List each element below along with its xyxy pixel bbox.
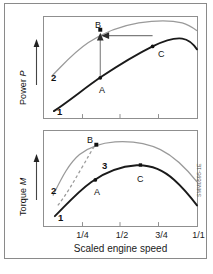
power-curve-label-2: 2 — [51, 72, 56, 83]
power-axis-arrow-icon — [32, 39, 41, 85]
torque-curve-1 — [55, 165, 197, 216]
torque-axis-title: Torque M — [18, 178, 28, 216]
figure-id-text: SMM0595-1E — [196, 163, 202, 197]
torque-curve-label-3: 3 — [102, 160, 107, 171]
torque-curve-label-2: 2 — [51, 185, 56, 196]
torque-plot-svg — [44, 131, 197, 226]
xaxis-tick-labels: 1/4 1/2 3/4 1/1 — [43, 230, 201, 242]
torque-curve-2 — [53, 142, 197, 196]
power-curve-label-1: 1 — [57, 106, 62, 117]
torque-curve-label-1: 1 — [58, 212, 63, 223]
torque-label-a: A — [94, 187, 100, 197]
xaxis-title: Scaled engine speed — [43, 243, 198, 254]
torque-plot-panel: B 3 C A 2 1 — [43, 130, 198, 227]
xtick-label-quarter: 1/4 — [76, 230, 89, 240]
torque-axis-title-text: Torque — [18, 188, 28, 216]
power-axis-title-text: Power — [18, 79, 28, 105]
xtick-label-half: 1/2 — [116, 230, 129, 240]
power-axis-title: Power P — [18, 70, 28, 105]
power-plot-svg — [44, 17, 197, 118]
torque-label-b: B — [87, 135, 93, 145]
power-axis-symbol: P — [18, 70, 28, 76]
torque-marker-point-b — [94, 143, 98, 147]
power-label-b: B — [95, 20, 101, 30]
xtick-label-full: 1/1 — [192, 230, 205, 240]
xtick-label-threequarter: 3/4 — [155, 230, 168, 240]
torque-axis-arrow-icon — [32, 154, 41, 200]
power-curve-1 — [54, 38, 197, 111]
power-label-c: C — [158, 49, 165, 59]
power-plot-panel: B C A 2 1 — [43, 16, 198, 119]
torque-marker-point-c — [139, 163, 142, 166]
torque-marker-point-a — [93, 178, 97, 182]
power-label-a: A — [99, 85, 105, 95]
figure-border: B C A 2 1 B 3 C A 2 1 Power — [4, 3, 207, 259]
torque-label-c: C — [137, 174, 144, 184]
torque-axis-symbol: M — [18, 178, 28, 186]
power-curve-2 — [52, 21, 197, 76]
marker-point-c — [151, 45, 155, 49]
marker-point-a — [98, 76, 102, 80]
